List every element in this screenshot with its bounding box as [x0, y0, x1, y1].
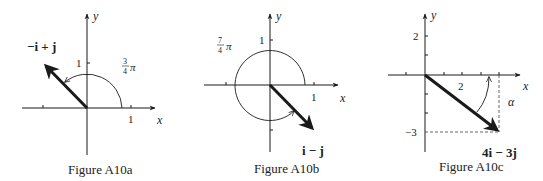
figure-a10a: y x 1 1 −i + j 3 4 π Figure A10a	[22, 9, 163, 177]
x-tick-label: 2	[458, 80, 464, 92]
x-axis-label: x	[522, 79, 529, 93]
y-tick-label: 1	[76, 57, 82, 69]
angle-arc	[477, 77, 489, 112]
vector-arrow	[46, 66, 87, 108]
angle-label: 3 4 π	[122, 57, 136, 76]
x-tick-label: 1	[128, 113, 134, 125]
y-tick-label-neg: −3	[405, 126, 417, 138]
vector-label: 4i − 3j	[482, 145, 517, 160]
svg-text:4: 4	[123, 67, 127, 76]
vector-label: i − j	[302, 143, 324, 158]
y-tick-label-pos: 2	[413, 30, 419, 42]
figure-caption: Figure A10b	[254, 161, 319, 176]
angle-label: 7 4 π	[217, 36, 232, 55]
vector-label: −i + j	[27, 39, 56, 54]
figure-a10b: y x 1 1 7 4 π i − j Figure A10b	[204, 9, 346, 176]
figure-caption: Figure A10a	[68, 162, 133, 177]
angle-label: α	[508, 95, 515, 109]
svg-text:4: 4	[218, 46, 222, 55]
y-axis-label: y	[430, 8, 437, 22]
x-axis-label: x	[156, 113, 163, 127]
angle-arc	[65, 74, 122, 108]
y-axis-label: y	[275, 9, 282, 23]
figure-caption: Figure A10c	[439, 159, 504, 174]
y-tick-label: 1	[259, 34, 265, 46]
figure-a10c: y x 2 2 −3 α 4i − 3j Figure A10c	[388, 8, 529, 174]
vector-arrow	[270, 85, 312, 128]
svg-text:π: π	[226, 40, 232, 52]
x-tick-label: 1	[311, 91, 317, 103]
figure-canvas: y x 1 1 −i + j 3 4 π Figure A10a y x 1 1…	[0, 0, 543, 181]
svg-text:π: π	[130, 61, 136, 73]
svg-text:7: 7	[218, 36, 222, 45]
x-axis-label: x	[339, 91, 346, 105]
y-axis-label: y	[92, 9, 99, 23]
svg-text:3: 3	[123, 57, 127, 66]
